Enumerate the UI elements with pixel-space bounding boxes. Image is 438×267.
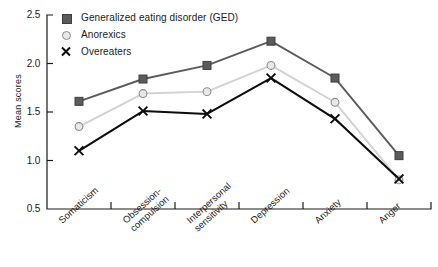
- y-axis-tick-label: 1.5: [12, 106, 40, 117]
- y-axis-tick-label: 2.0: [12, 58, 40, 69]
- legend-item[interactable]: Anorexics: [60, 26, 238, 43]
- y-axis-tick-label: 0.5: [12, 203, 40, 214]
- chart-legend: Generalized eating disorder (GED)Anorexi…: [60, 9, 238, 60]
- legend-square-icon: [60, 11, 74, 25]
- legend-x-icon: [60, 45, 74, 59]
- legend-item[interactable]: Generalized eating disorder (GED): [60, 9, 238, 26]
- legend-circle-icon: [60, 28, 74, 42]
- y-axis-tick-label: 2.5: [12, 9, 40, 20]
- legend-item-label: Anorexics: [81, 29, 126, 40]
- line-chart: Mean scores 2.52.01.51.00.5SomaticismObs…: [0, 0, 438, 267]
- circle-icon: [62, 31, 71, 40]
- legend-item-label: Generalized eating disorder (GED): [81, 12, 238, 23]
- legend-item-label: Overeaters: [81, 46, 131, 57]
- y-axis-tick-label: 1.0: [12, 155, 40, 166]
- legend-item[interactable]: Overeaters: [60, 43, 238, 60]
- square-icon: [62, 14, 72, 24]
- x-icon: [60, 45, 74, 59]
